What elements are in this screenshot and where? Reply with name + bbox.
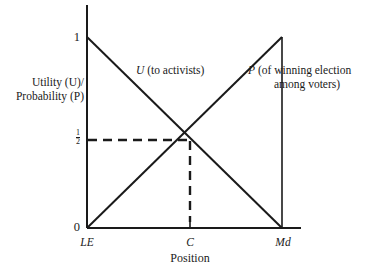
series-symbol-u: U (136, 64, 144, 76)
x-tick-label-c: C (176, 236, 204, 250)
series-annotation-p: P (of winning election among voters) (248, 64, 376, 91)
fraction-denominator: 2 (76, 137, 80, 146)
y-axis-title: Utility (U)/ Probability (P) (0, 76, 84, 103)
series-annotation-p-line2: among voters) (248, 78, 376, 92)
fraction-one-half: 1 2 (76, 129, 80, 146)
series-annotation-p-line1: P (of winning election (248, 64, 351, 76)
series-description-u: (to activists) (147, 64, 204, 76)
x-axis-title: Position (140, 251, 240, 265)
x-tick-label-md: Md (266, 236, 300, 250)
chart-figure: Utility (U)/ Probability (P) 1 1 2 0 LE … (0, 0, 378, 271)
plot-area (0, 0, 378, 271)
y-axis-title-line2: Probability (P) (0, 90, 84, 104)
fraction-numerator: 1 (76, 129, 80, 137)
series-annotation-u: U (to activists) (136, 64, 204, 78)
y-tick-label-1: 1 (64, 30, 80, 45)
x-tick-label-le: LE (72, 236, 102, 250)
y-tick-label-0: 0 (64, 220, 80, 235)
y-tick-label-half: 1 2 (62, 130, 80, 147)
y-axis-title-line1: Utility (U)/ (0, 76, 84, 90)
